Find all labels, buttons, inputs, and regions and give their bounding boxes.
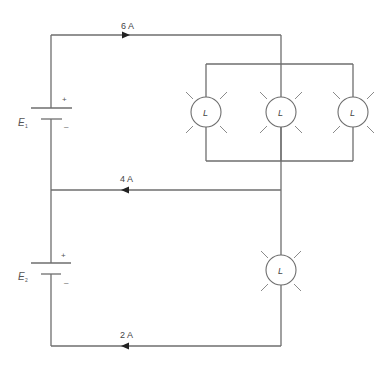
lamp-ray-icon [260, 126, 267, 133]
lamp-ray-icon [186, 126, 193, 133]
circuit-diagram: + – E 1 + – E 2 6 A 4 A 2 A L [0, 0, 391, 365]
e2-minus-sign: – [64, 278, 69, 287]
lamp-ray-icon [367, 126, 374, 133]
lamp-label: L [278, 108, 283, 118]
e2-label: E [18, 271, 25, 282]
lamp-ray-icon [367, 92, 374, 99]
lamp-ray-icon [220, 92, 227, 99]
wires [51, 35, 353, 346]
current-label-middle: 4 A [120, 174, 133, 184]
lamp-ray-icon [220, 126, 227, 133]
lamp-ray-icon [294, 284, 301, 291]
lamp-ray-icon [333, 92, 340, 99]
lamp-ray-icon [186, 92, 193, 99]
e1-minus-sign: – [64, 122, 69, 131]
battery-e1: + – E 1 [18, 95, 72, 131]
current-label-bottom: 2 A [120, 330, 133, 340]
e1-subscript: 1 [25, 123, 28, 129]
lamp-ray-icon [295, 126, 302, 133]
lamp-label: L [203, 108, 208, 118]
e2-subscript: 2 [25, 277, 28, 283]
e1-label: E [18, 117, 25, 128]
e1-plus-sign: + [62, 95, 67, 104]
lamp-label: L [350, 108, 355, 118]
battery-e2: + – E 2 [18, 251, 71, 287]
arrow-left-icon [121, 187, 129, 194]
lamp-4: L [261, 251, 301, 291]
current-top: 6 A [121, 21, 134, 39]
lamp-1: L [186, 92, 227, 133]
lamp-ray-icon [260, 92, 267, 99]
current-label-top: 6 A [121, 21, 134, 31]
arrow-right-icon [122, 32, 130, 39]
lamp-ray-icon [333, 126, 340, 133]
lamp-ray-icon [261, 284, 268, 291]
lamp-2: L [260, 92, 302, 133]
e2-plus-sign: + [61, 251, 66, 260]
lamp-ray-icon [294, 251, 301, 258]
lamp-ray-icon [261, 251, 268, 258]
lamp-ray-icon [295, 92, 302, 99]
arrow-left-icon [121, 343, 129, 350]
lamp-3: L [333, 92, 374, 133]
lamp-label: L [278, 266, 283, 276]
